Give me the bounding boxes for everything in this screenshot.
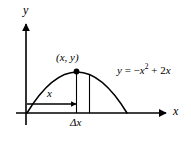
parabola-figure: y x (x, y) x Δx y = −x2 + 2x	[0, 0, 191, 143]
point-coordinates-label: (x, y)	[56, 52, 79, 63]
equation-equals: = −	[122, 64, 140, 76]
y-axis-label: y	[23, 4, 28, 16]
equation-x-linear: x	[166, 64, 171, 76]
equation-plus: + 2	[148, 64, 165, 76]
curve-point-marker	[74, 69, 80, 75]
delta-x-label: Δx	[70, 117, 81, 128]
x-segment-label: x	[47, 88, 52, 99]
equation-label: y = −x2 + 2x	[117, 65, 171, 76]
x-axis-label: x	[173, 105, 178, 117]
